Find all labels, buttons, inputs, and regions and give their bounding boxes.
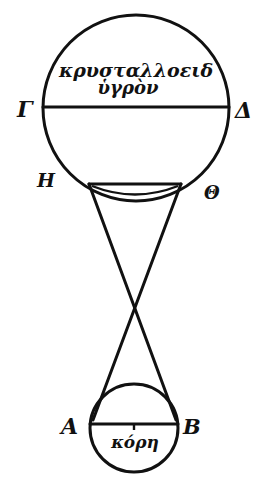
inner-arc [92,186,178,195]
label-gamma: Γ [16,96,34,122]
label-eta: Η [36,169,56,191]
small-circle-text: κόρη [110,432,159,452]
large-circle-text-line2: ὑγρὸν [98,77,159,98]
optics-diagram: κρυσταλλοειδ ὑγρὸν κόρη Γ Δ Η Θ Α Β [0,0,269,487]
label-theta: Θ [204,182,220,203]
large-circle-group: κρυσταλλοειδ ὑγρὸν [43,15,229,201]
label-delta: Δ [234,97,252,123]
label-beta: Β [182,414,201,439]
small-circle-group: κόρη [90,384,178,472]
label-alpha: Α [59,413,78,439]
